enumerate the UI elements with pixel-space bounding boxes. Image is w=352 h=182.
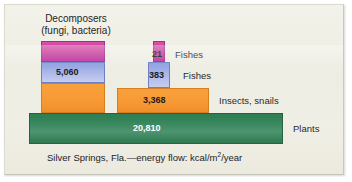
- bar-value-decomposers: 5,060: [56, 67, 79, 77]
- pyramid-plot: Decomposers (fungi, bacteria) 5,060 21 F…: [5, 5, 344, 175]
- bar-value-plants: 20,810: [133, 123, 161, 133]
- energy-pyramid-figure: Decomposers (fungi, bacteria) 5,060 21 F…: [0, 0, 352, 182]
- side-label-insects-snails: Insects, snails: [219, 95, 279, 106]
- side-label-fishes-top: Fishes: [175, 49, 203, 60]
- figure-caption: Silver Springs, Fla.—energy flow: kcal/m…: [47, 152, 242, 163]
- decomposers-annotation-line2: (fungi, bacteria): [21, 25, 131, 37]
- caption-suffix: /year: [221, 152, 242, 163]
- caption-prefix: Silver Springs, Fla.—energy flow: kcal/m: [47, 152, 218, 163]
- side-label-plants: Plants: [293, 123, 319, 134]
- bar-decomposers-bottom: [41, 83, 105, 113]
- side-label-fishes-middle: Fishes: [183, 70, 211, 81]
- figure-panel: Decomposers (fungi, bacteria) 5,060 21 F…: [4, 4, 344, 175]
- bar-value-insects-snails: 3,368: [143, 95, 166, 105]
- decomposers-annotation: Decomposers (fungi, bacteria): [21, 13, 131, 37]
- decomposers-annotation-line1: Decomposers: [21, 13, 131, 25]
- bar-value-fishes-middle: 383: [149, 70, 164, 80]
- bar-value-fishes-top: 21: [152, 49, 162, 59]
- bar-decomposers-top: [41, 41, 105, 62]
